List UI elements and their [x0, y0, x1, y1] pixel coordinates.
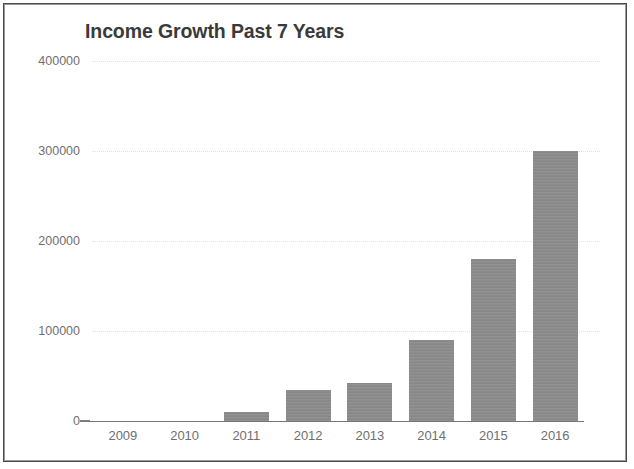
- bar-slot-2009: [92, 61, 154, 421]
- bar-slot-2011: [216, 61, 278, 421]
- bar-2013[interactable]: [347, 383, 392, 421]
- bar-slot-2016: [524, 61, 586, 421]
- y-axis-tick-labels: 400000 300000 200000 100000 0: [12, 61, 80, 421]
- y-tick-label-100000: 100000: [38, 324, 80, 338]
- x-tick-label-2016: 2016: [524, 428, 586, 443]
- x-tick-label-2014: 2014: [401, 428, 463, 443]
- x-axis-line: [80, 421, 584, 422]
- x-tick-label-2015: 2015: [463, 428, 525, 443]
- y-tick-label-200000: 200000: [38, 234, 80, 248]
- y-tick-label-400000: 400000: [38, 54, 80, 68]
- x-tick-label-2013: 2013: [339, 428, 401, 443]
- y-tick-label-0: 0: [73, 414, 80, 428]
- bar-slot-2013: [339, 61, 401, 421]
- bar-slot-2014: [401, 61, 463, 421]
- x-tick-label-2010: 2010: [154, 428, 216, 443]
- x-axis-tick-labels: 2009 2010 2011 2012 2013 2014 2015 2016: [92, 428, 586, 443]
- bar-2011[interactable]: [224, 412, 269, 421]
- bar-2016[interactable]: [533, 151, 578, 421]
- chart-title: Income Growth Past 7 Years: [85, 20, 344, 43]
- y-tick-label-300000: 300000: [38, 144, 80, 158]
- x-tick-label-2012: 2012: [277, 428, 339, 443]
- bar-2012[interactable]: [286, 390, 331, 422]
- x-tick-label-2009: 2009: [92, 428, 154, 443]
- bar-slot-2012: [277, 61, 339, 421]
- bar-2015[interactable]: [471, 259, 516, 421]
- bar-chart: Income Growth Past 7 Years 400000 300000…: [0, 0, 634, 469]
- x-tick-label-2011: 2011: [216, 428, 278, 443]
- bar-slot-2010: [154, 61, 216, 421]
- chart-screenshot: Income Growth Past 7 Years 400000 300000…: [0, 0, 634, 469]
- y-axis-zero-tick-mark: [80, 420, 90, 421]
- bar-2014[interactable]: [409, 340, 454, 421]
- bar-slot-2015: [463, 61, 525, 421]
- bar-series-income: [92, 61, 586, 421]
